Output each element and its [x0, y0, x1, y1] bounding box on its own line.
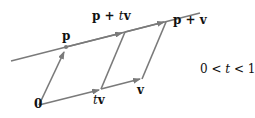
arrow-p-to-p-plus-tv: [66, 33, 122, 47]
label-p-plus: p +: [92, 9, 119, 23]
vector-line-diagram: 0 p p + tv tv v p + v 0 < t < 1: [0, 0, 255, 118]
condition-post: < 1: [230, 62, 255, 76]
vector-p: [39, 52, 64, 105]
side-v-to-p-plus-v: [142, 22, 166, 79]
vector-tv: [39, 90, 99, 105]
label-origin: 0: [34, 98, 42, 110]
point-p: [64, 45, 68, 49]
condition-pre: 0 <: [200, 62, 225, 76]
label-tv: tv: [93, 94, 105, 106]
vector-tv-to-v: [101, 79, 140, 89]
label-v: v: [98, 93, 105, 107]
label-p: p: [62, 30, 70, 42]
side-tv-to-p-plus-tv: [101, 32, 125, 89]
arrow-p-plus-tv-to-p-plus-v: [125, 22, 164, 32]
condition-label: 0 < t < 1: [200, 63, 255, 75]
label-p-plus-tv: p + tv: [92, 10, 131, 22]
label-p-plus-v: p + v: [173, 14, 207, 26]
label-v: v: [124, 9, 131, 23]
label-v: v: [137, 84, 144, 96]
